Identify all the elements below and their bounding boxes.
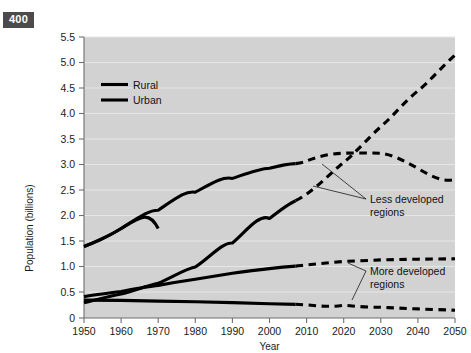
x-tick-label-2030: 2030: [369, 325, 393, 337]
y-tick-label-0: 0: [69, 312, 75, 324]
y-tick-label-5: 2.5: [60, 184, 75, 196]
x-tick-label-2000: 2000: [258, 325, 282, 337]
x-tick-label-1960: 1960: [109, 325, 133, 337]
y-tick-label-10: 5.0: [60, 56, 75, 68]
y-tick-label-9: 4.5: [60, 82, 75, 94]
annotation-less-developed-line1: Less developed: [370, 193, 444, 205]
x-tick-label-1950: 1950: [72, 325, 96, 337]
x-tick-label-2040: 2040: [406, 325, 430, 337]
figure-container: 400: [0, 0, 471, 353]
y-tick-label-8: 4.0: [60, 107, 75, 119]
annotation-more-developed-line1: More developed: [370, 265, 445, 277]
population-chart: 0 0.5 1.0 1.5 2.0 2.5 3.0 3.5 4.0 4.5 5.…: [0, 0, 471, 353]
y-tick-label-3: 1.5: [60, 235, 75, 247]
annotation-more-developed-line2: regions: [370, 278, 404, 290]
x-tick-label-2010: 2010: [295, 325, 319, 337]
y-tick-label-4: 2.0: [60, 209, 75, 221]
annotation-less-developed-line2: regions: [370, 206, 404, 218]
x-tick-label-1990: 1990: [221, 325, 245, 337]
y-tick-label-2: 1.0: [60, 260, 75, 272]
x-tick-label-2020: 2020: [332, 325, 356, 337]
y-tick-label-7: 3.5: [60, 133, 75, 145]
x-tickmarks: [84, 318, 455, 323]
y-tick-label-11: 5.5: [60, 31, 75, 43]
x-axis-title: Year: [259, 341, 280, 352]
x-tick-label-1970: 1970: [147, 325, 171, 337]
y-tick-label-1: 0.5: [60, 286, 75, 298]
x-tick-label-1980: 1980: [184, 325, 208, 337]
legend-label-rural: Rural: [133, 79, 158, 91]
y-axis-title: Population (billions): [24, 184, 35, 271]
legend-label-urban: Urban: [133, 94, 162, 106]
y-tickmarks: [79, 37, 84, 318]
y-tick-label-6: 3.0: [60, 158, 75, 170]
x-tick-label-2050: 2050: [443, 325, 467, 337]
